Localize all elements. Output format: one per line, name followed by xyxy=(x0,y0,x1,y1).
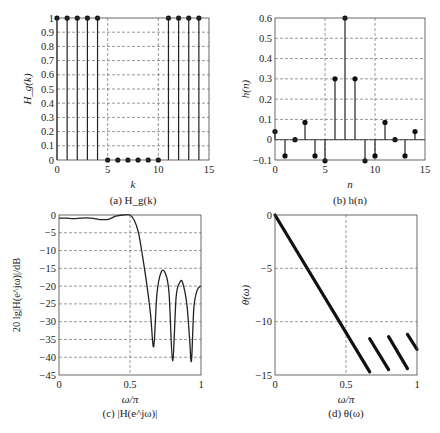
plot-a-hg-k: 00.10.20.30.40.50.60.70.80.91051015kH_g(… xyxy=(21,13,214,208)
x-tick-label: 0 xyxy=(56,379,61,390)
y-tick-label: 0 xyxy=(267,134,272,145)
y-tick-label: −40 xyxy=(40,352,56,363)
y-tick-label: −10 xyxy=(256,316,272,327)
y-tick-label: 0.7 xyxy=(41,55,54,66)
x-axis-label: ω/π xyxy=(338,393,355,405)
figure: 00.10.20.30.40.50.60.70.80.91051015kH_g(… xyxy=(0,0,440,433)
x-tick-label: 1 xyxy=(414,379,419,390)
y-tick-label: 0.5 xyxy=(259,33,272,44)
x-tick-label: 5 xyxy=(322,164,327,175)
stem-marker xyxy=(332,76,337,81)
y-tick-label: 0.1 xyxy=(259,114,272,125)
plot-c-magnitude-response: 0−5−10−15−20−25−30−35−40−4500.51ω/π20 lg… xyxy=(11,210,204,421)
y-tick-label: 0.6 xyxy=(41,69,54,80)
x-tick-label: 10 xyxy=(370,164,381,175)
y-tick-label: −35 xyxy=(40,334,56,345)
x-tick-label: 0 xyxy=(272,164,277,175)
x-tick-label: 0 xyxy=(54,164,59,175)
subplot-caption: (d) θ(ω) xyxy=(328,407,364,420)
phase-segment xyxy=(275,215,370,372)
stem-marker xyxy=(372,153,377,158)
y-tick-label: 0.9 xyxy=(41,27,54,38)
y-tick-label: 0.6 xyxy=(259,13,272,24)
y-tick-label: −25 xyxy=(40,298,56,309)
stem-marker xyxy=(302,120,307,125)
y-tick-label: −0.1 xyxy=(253,155,272,166)
y-tick-label: −5 xyxy=(45,227,56,238)
y-tick-label: 0 xyxy=(267,210,272,221)
y-tick-label: −30 xyxy=(40,316,56,327)
axes-box xyxy=(275,18,425,160)
y-tick-label: 0 xyxy=(49,155,54,166)
y-tick-label: 0.3 xyxy=(41,112,54,123)
y-axis-label: 20 lg|H(e^jω)|/dB xyxy=(11,258,23,333)
y-tick-label: 0.4 xyxy=(41,98,55,109)
y-tick-label: 0.5 xyxy=(41,84,54,95)
subplot-caption: (a) H_g(k) xyxy=(110,194,157,207)
y-tick-label: 0.2 xyxy=(259,94,272,105)
y-tick-label: −5 xyxy=(261,263,272,274)
stem-marker xyxy=(362,158,367,163)
subplot-caption: (b) h(n) xyxy=(333,194,367,207)
stem-marker xyxy=(412,129,417,134)
subplot-caption: (c) |H(e^jω)| xyxy=(103,407,158,420)
y-axis-label: h(n) xyxy=(239,80,252,99)
y-tick-label: −15 xyxy=(40,263,56,274)
plot-d-phase-response: 0−5−10−1500.51ω/πθ(ω)(d) θ(ω) xyxy=(239,210,420,421)
stem-marker xyxy=(312,153,317,158)
x-tick-label: 0 xyxy=(272,379,277,390)
y-tick-label: −45 xyxy=(40,370,56,381)
stem-marker xyxy=(382,120,387,125)
phase-segment xyxy=(389,337,408,369)
x-tick-label: 1 xyxy=(198,379,203,390)
phase-segment xyxy=(407,334,417,349)
x-tick-label: 0.5 xyxy=(123,379,136,390)
y-axis-label: θ(ω) xyxy=(239,284,252,305)
y-axis-label: H_g(k) xyxy=(21,73,34,105)
x-tick-label: 5 xyxy=(105,164,110,175)
x-axis-label: n xyxy=(347,178,353,190)
x-tick-label: 15 xyxy=(204,164,215,175)
y-tick-label: 0.4 xyxy=(259,53,273,64)
x-tick-label: 0.5 xyxy=(339,379,352,390)
stem-marker xyxy=(402,153,407,158)
y-tick-label: 0.3 xyxy=(259,73,272,84)
x-tick-label: 15 xyxy=(420,164,431,175)
x-axis-label: ω/π xyxy=(122,393,139,405)
y-tick-label: 0.1 xyxy=(41,140,54,151)
y-tick-label: 0 xyxy=(51,210,56,221)
plot-b-h-n: −0.100.10.20.30.40.50.6051015nh(n)(b) h(… xyxy=(239,13,430,208)
y-tick-label: −10 xyxy=(40,245,56,256)
stem-marker xyxy=(322,158,327,163)
x-axis-label: k xyxy=(131,178,137,190)
stem-marker xyxy=(282,153,287,158)
y-tick-label: −15 xyxy=(256,370,272,381)
stem-marker xyxy=(352,76,357,81)
y-tick-label: −20 xyxy=(40,281,56,292)
x-tick-label: 10 xyxy=(153,164,164,175)
y-tick-label: 0.8 xyxy=(41,41,54,52)
y-tick-label: 0.2 xyxy=(41,126,54,137)
y-tick-label: 1 xyxy=(49,13,54,24)
phase-segment xyxy=(370,339,389,370)
